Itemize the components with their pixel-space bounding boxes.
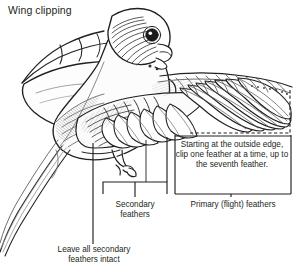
wing-clipping-illustration [0,0,301,272]
secondary-feathers-label: Secondary feathers [103,200,167,220]
bird-tail [0,140,70,256]
leave-intact-text: Leave all secondary feathers intact [42,245,146,265]
cut-instruction-text: Starting at the outside edge, clip one f… [174,140,290,171]
primary-feathers-label: Primary (flight) feathers [175,200,291,210]
